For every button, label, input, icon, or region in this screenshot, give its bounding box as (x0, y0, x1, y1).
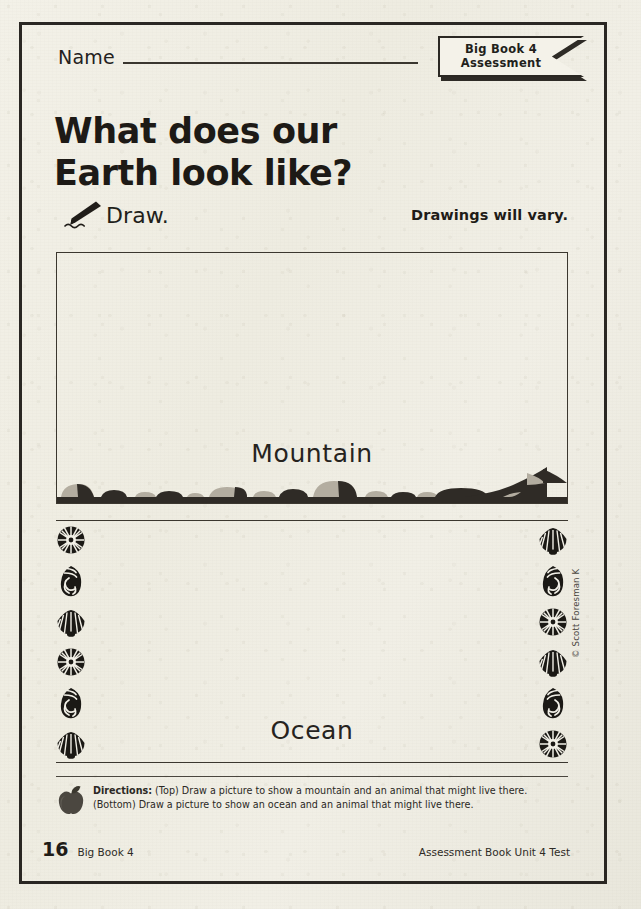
page-title-line-2: Earth look like? (54, 153, 474, 194)
conch-shell-icon (538, 565, 568, 597)
ocean-box-bottom-rule (56, 762, 568, 763)
directions-label: Directions: (93, 785, 152, 796)
scallop-shell-icon (538, 646, 568, 678)
page-title-line-1: What does our (54, 111, 474, 152)
page-footer: 16 Big Book 4 Assessment Book Unit 4 Tes… (42, 838, 570, 860)
pencil-icon (58, 199, 104, 231)
ocean-label: Ocean (56, 716, 568, 745)
name-label: Name (58, 46, 115, 68)
conch-shell-icon (56, 687, 86, 719)
spiral-shell-icon (56, 646, 86, 678)
conch-shell-icon (538, 687, 568, 719)
rock-border-icon (57, 447, 568, 503)
directions-row: Directions: (Top) Draw a picture to show… (56, 784, 570, 815)
conch-shell-icon (56, 565, 86, 597)
directions-text: Directions: (Top) Draw a picture to show… (93, 784, 570, 811)
page-title: What does our Earth look like? (54, 111, 474, 194)
name-field-row: Name (58, 46, 418, 68)
draw-instruction-row: Draw. Drawings will vary. (58, 198, 568, 232)
scallop-shell-icon (538, 524, 568, 556)
draw-label: Draw. (106, 203, 169, 228)
page-number: 16 (42, 838, 68, 860)
apple-icon (56, 785, 86, 815)
copyright-notice: © Scott Foresman K (571, 569, 581, 658)
spiral-shell-icon (538, 606, 568, 638)
ribbon-line-1: Big Book 4 (465, 43, 537, 56)
footer-left-label: Big Book 4 (77, 846, 133, 858)
directions-divider-rule (56, 776, 568, 777)
ocean-box-top-rule (56, 520, 568, 521)
ribbon-body: Big Book 4 Assessment (438, 36, 584, 77)
answer-key-note: Drawings will vary. (411, 207, 568, 223)
mountain-drawing-area[interactable]: Mountain (56, 252, 568, 504)
assessment-ribbon-banner: Big Book 4 Assessment (438, 36, 584, 77)
ocean-drawing-area[interactable]: Ocean (56, 520, 568, 764)
name-write-in-line[interactable] (123, 62, 418, 64)
directions-body: (Top) Draw a picture to show a mountain … (93, 785, 527, 810)
footer-right-label: Assessment Book Unit 4 Test (419, 846, 570, 858)
ribbon-line-2: Assessment (461, 57, 542, 70)
worksheet-page: Name Big Book 4 Assessment What does our… (0, 0, 641, 909)
scallop-shell-icon (56, 606, 86, 638)
spiral-shell-icon (56, 524, 86, 556)
